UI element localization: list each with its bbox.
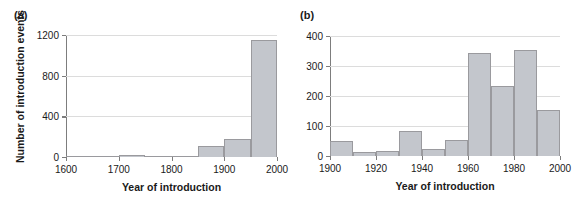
x-tick-mark bbox=[66, 157, 67, 161]
gridline bbox=[66, 35, 277, 36]
y-tick-label: 400 bbox=[42, 111, 59, 122]
y-tick-mark bbox=[62, 116, 66, 117]
y-tick-label: 400 bbox=[306, 31, 323, 42]
x-tick-mark bbox=[468, 156, 469, 160]
x-tick-label: 1920 bbox=[365, 163, 387, 174]
gridline bbox=[66, 76, 277, 77]
x-tick-mark bbox=[330, 156, 331, 160]
y-tick-mark bbox=[326, 96, 330, 97]
x-tick-mark bbox=[119, 157, 120, 161]
x-tick-label: 1940 bbox=[411, 163, 433, 174]
x-tick-label: 1700 bbox=[108, 164, 130, 175]
bar bbox=[353, 152, 376, 156]
bar bbox=[514, 50, 537, 156]
panel-a-plot-area: 04008001200 16001700180019002000 bbox=[66, 35, 277, 157]
panel-a-x-axis-title: Year of introduction bbox=[66, 181, 277, 193]
y-tick-mark bbox=[62, 35, 66, 36]
bar bbox=[491, 86, 514, 156]
panel-b-plot-area: 0100200300400 190019201940196019802000 bbox=[330, 36, 560, 156]
bar bbox=[224, 139, 250, 157]
x-tick-label: 1960 bbox=[457, 163, 479, 174]
x-tick-label: 2000 bbox=[266, 164, 288, 175]
x-tick-label: 2000 bbox=[549, 163, 571, 174]
bar bbox=[119, 155, 145, 157]
x-tick-label: 1980 bbox=[503, 163, 525, 174]
bar bbox=[66, 156, 92, 157]
panel-b-label: (b) bbox=[300, 9, 314, 21]
y-tick-mark bbox=[326, 126, 330, 127]
panel-b-x-axis-title: Year of introduction bbox=[330, 180, 560, 192]
bar bbox=[468, 53, 491, 157]
x-tick-mark bbox=[514, 156, 515, 160]
x-tick-mark bbox=[560, 156, 561, 160]
x-tick-mark bbox=[277, 157, 278, 161]
x-tick-label: 1900 bbox=[213, 164, 235, 175]
x-tick-label: 1800 bbox=[160, 164, 182, 175]
x-tick-mark bbox=[172, 157, 173, 161]
gridline bbox=[66, 116, 277, 117]
y-tick-mark bbox=[62, 76, 66, 77]
bar bbox=[145, 156, 171, 157]
y-tick-label: 0 bbox=[317, 151, 323, 162]
x-tick-label: 1900 bbox=[319, 163, 341, 174]
bar bbox=[422, 149, 445, 156]
y-tick-mark bbox=[326, 36, 330, 37]
y-tick-label: 1200 bbox=[37, 30, 59, 41]
x-tick-mark bbox=[224, 157, 225, 161]
y-tick-mark bbox=[326, 66, 330, 67]
x-tick-mark bbox=[422, 156, 423, 160]
figure-histograms-introduction-events: (a) Number of introduction events 040080… bbox=[0, 0, 577, 202]
panel-a: (a) Number of introduction events 040080… bbox=[0, 0, 290, 202]
bar bbox=[445, 140, 468, 157]
bar bbox=[198, 146, 224, 157]
y-tick-label: 300 bbox=[306, 61, 323, 72]
x-tick-mark bbox=[376, 156, 377, 160]
panel-a-y-axis-line bbox=[66, 35, 67, 157]
bar bbox=[399, 131, 422, 156]
gridline bbox=[330, 36, 560, 37]
bar bbox=[537, 110, 560, 157]
x-tick-label: 1600 bbox=[55, 164, 77, 175]
bar bbox=[172, 156, 198, 157]
y-tick-label: 0 bbox=[53, 152, 59, 163]
panel-b: (b) 0100200300400 1900192019401960198020… bbox=[290, 0, 577, 202]
y-tick-label: 800 bbox=[42, 70, 59, 81]
bar bbox=[92, 156, 118, 157]
y-tick-label: 100 bbox=[306, 121, 323, 132]
panel-a-y-axis-title: Number of introduction events bbox=[14, 10, 26, 163]
bar bbox=[330, 141, 353, 156]
y-tick-label: 200 bbox=[306, 91, 323, 102]
bar bbox=[376, 151, 399, 156]
bar bbox=[251, 40, 277, 157]
